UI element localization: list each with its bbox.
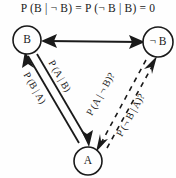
diagram-canvas xyxy=(0,0,176,178)
arrowhead-into-a-from-b xyxy=(81,130,93,147)
node-label-b: B xyxy=(12,33,42,45)
arrowhead-into-a-from-notb xyxy=(96,134,108,152)
arrowhead-into-notb-from-a xyxy=(144,56,157,74)
edge-b-to-notb xyxy=(41,34,145,49)
node-label-notb: ¬ B xyxy=(143,35,173,47)
edge-line-b-notb xyxy=(47,41,140,42)
node-label-a: A xyxy=(73,154,103,166)
probability-transition-diagram: P (B | ¬ B) = P (¬ B | B) = 0 xyxy=(0,0,176,178)
